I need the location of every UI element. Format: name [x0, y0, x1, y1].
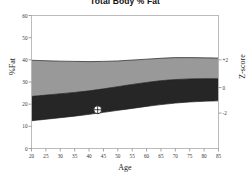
reference-bands — [32, 58, 219, 121]
z-tick-label-0: 0 — [223, 85, 235, 91]
data-markers — [94, 106, 102, 114]
y-tick-label-10: 10 — [11, 123, 28, 129]
y-tick-label-50: 50 — [11, 35, 28, 41]
y-tick-label-60: 60 — [11, 13, 28, 19]
y-tick-label-30: 30 — [11, 79, 28, 85]
y-tick-label-40: 40 — [11, 57, 28, 63]
y-tick-label-20: 20 — [11, 101, 28, 107]
z-tick-label-minus2: -2 — [223, 110, 235, 116]
patient-measurement-marker — [94, 106, 102, 114]
x-tick-label-85: 85 — [210, 153, 228, 159]
y-tick-label-0: 0 — [11, 146, 28, 152]
chart-figure: Total Body % Fat %Fat Z-score Age 202530… — [0, 0, 250, 181]
z-tick-label-plus2: +2 — [223, 57, 235, 63]
